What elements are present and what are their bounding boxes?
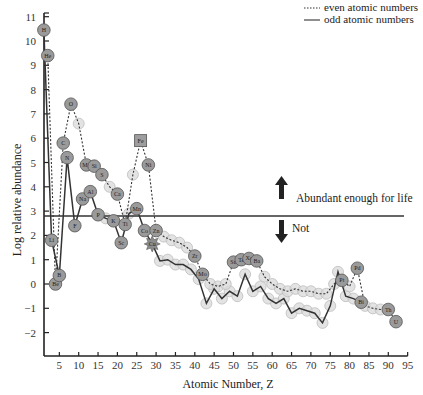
arrow-down-icon: [279, 220, 284, 236]
element-marker-n: N: [61, 151, 74, 164]
element-marker-u: U: [390, 315, 403, 328]
x-tick-label: 30: [151, 359, 163, 371]
element-marker-sc: Sc: [115, 236, 128, 249]
svg-text:B: B: [57, 272, 61, 278]
y-tick-label: 5: [31, 157, 37, 169]
element-marker-pt: Pt: [336, 274, 349, 287]
element-marker-co: Co: [138, 224, 151, 237]
element-marker-mn: Mn: [130, 202, 143, 215]
y-tick-label: 8: [31, 84, 37, 96]
element-marker-zn: Zn: [150, 224, 163, 237]
svg-text:Cu: Cu: [149, 241, 156, 247]
axes: −2−1012345678910115101520253035404550556…: [24, 11, 413, 371]
svg-text:Pd: Pd: [354, 265, 360, 271]
element-marker-b: B: [53, 269, 66, 282]
x-tick-label: 60: [267, 359, 279, 371]
svg-text:Zn: Zn: [153, 228, 160, 234]
y-axis-label: Log relative abundance: [10, 144, 24, 257]
x-tick-label: 65: [286, 359, 298, 371]
arrow-up-icon: [279, 183, 284, 199]
svg-text:O: O: [69, 101, 74, 107]
x-tick-label: 90: [383, 359, 395, 371]
svg-text:Th: Th: [385, 307, 392, 313]
y-tick-label: 1: [31, 254, 37, 266]
svg-text:N: N: [65, 155, 70, 161]
element-marker-k: K: [107, 215, 120, 228]
legend-label-even: even atomic numbers: [324, 1, 418, 13]
y-tick-label: 6: [31, 132, 37, 144]
svg-text:S: S: [100, 172, 103, 178]
svg-text:Zr: Zr: [192, 253, 198, 259]
element-marker-cu: Cu: [144, 236, 160, 252]
x-axis-label: Atomic Number, Z: [182, 377, 273, 391]
y-tick-label: 7: [31, 108, 37, 120]
svg-text:C: C: [61, 140, 65, 146]
element-marker-ba: Ba: [250, 255, 263, 268]
element-marker-fe: Fe: [135, 135, 147, 147]
x-tick-label: 45: [209, 359, 221, 371]
y-tick-label: 4: [31, 181, 37, 193]
svg-text:Bi: Bi: [358, 299, 364, 305]
svg-text:Li: Li: [49, 237, 55, 243]
element-marker-th: Th: [382, 303, 395, 316]
element-marker-h: H: [38, 24, 51, 37]
svg-text:Co: Co: [141, 228, 148, 234]
svg-text:Pt: Pt: [339, 277, 344, 283]
element-marker-o: O: [65, 98, 78, 111]
svg-text:He: He: [44, 53, 51, 59]
threshold-above-label: Abundant enough for life: [296, 192, 413, 205]
x-tick-label: 80: [344, 359, 356, 371]
element-marker-s: S: [96, 168, 109, 181]
svg-text:Al: Al: [87, 189, 93, 195]
svg-text:K: K: [111, 218, 116, 224]
element-marker-ni: Ni: [142, 159, 155, 172]
y-tick-label: 2: [31, 229, 37, 241]
element-marker-he: He: [41, 49, 54, 62]
y-tick-label: 11: [25, 11, 36, 23]
element-marker-f: F: [69, 219, 82, 232]
svg-text:Na: Na: [79, 196, 86, 202]
y-tick-label: −2: [24, 327, 36, 339]
svg-text:Si: Si: [92, 163, 97, 169]
y-tick-label: 10: [25, 35, 37, 47]
legend-label-odd: odd atomic numbers: [324, 13, 414, 25]
x-tick-label: 10: [73, 359, 85, 371]
y-tick-label: −1: [24, 302, 36, 314]
x-tick-label: 50: [228, 359, 240, 371]
element-marker-ca: Ca: [111, 188, 124, 201]
svg-text:U: U: [394, 319, 399, 325]
x-tick-label: 70: [305, 359, 317, 371]
x-tick-label: 55: [247, 359, 259, 371]
x-tick-label: 40: [189, 359, 201, 371]
x-tick-label: 95: [402, 359, 414, 371]
element-marker-zr: Zr: [189, 250, 202, 263]
svg-text:Mo: Mo: [198, 271, 206, 277]
element-marker-mo: Mo: [196, 268, 209, 281]
threshold-below-label: Not: [292, 222, 310, 234]
x-tick-label: 35: [170, 359, 182, 371]
y-tick-label: 3: [31, 205, 37, 217]
element-marker-pd: Pd: [351, 262, 364, 275]
svg-text:H: H: [42, 27, 47, 33]
svg-text:Sc: Sc: [118, 240, 124, 246]
element-marker-p: P: [92, 208, 105, 221]
svg-text:Fe: Fe: [138, 138, 144, 144]
element-marker-ti: Ti: [119, 218, 132, 231]
element-marker-li: Li: [45, 234, 58, 247]
x-tick-label: 15: [93, 359, 105, 371]
element-marker-al: Al: [84, 185, 97, 198]
element-marker-c: C: [57, 137, 70, 150]
x-tick-label: 5: [57, 359, 63, 371]
y-tick-label: 0: [31, 278, 37, 290]
svg-text:Ba: Ba: [253, 258, 260, 264]
y-tick-label: 9: [31, 59, 37, 71]
x-tick-label: 85: [363, 359, 375, 371]
svg-text:Ni: Ni: [145, 162, 151, 168]
abundance-chart: −2−1012345678910115101520253035404550556…: [0, 0, 423, 395]
svg-text:Ti: Ti: [123, 221, 128, 227]
x-tick-label: 75: [325, 359, 337, 371]
element-marker-bi: Bi: [355, 296, 368, 309]
legend: even atomic numbersodd atomic numbers: [304, 1, 418, 25]
svg-text:Ca: Ca: [114, 191, 121, 197]
x-tick-label: 25: [131, 359, 143, 371]
